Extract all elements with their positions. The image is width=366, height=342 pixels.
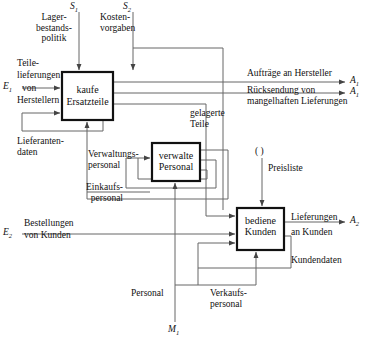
edge-verkaufspersonal-h — [198, 268, 256, 285]
terminal-s2-sub: 2 — [128, 6, 131, 13]
label-preisliste: Preisliste — [268, 163, 303, 174]
label-lieferungen-kunden: Lieferungen — [291, 212, 337, 223]
terminal-e1-sub: 1 — [9, 86, 12, 93]
terminal-m1-letter: M — [168, 324, 176, 334]
label-verwaltungspersonal: Verwaltungs- personal — [88, 149, 139, 170]
terminal-e1: E1 — [3, 81, 12, 95]
edge-s2-right-down — [133, 48, 223, 210]
box-label-bediene-line2: Kunden — [237, 226, 284, 237]
label-personal: Personal — [131, 288, 164, 299]
label-klammer: ( ) — [255, 146, 264, 157]
terminal-a2-sub: 2 — [356, 220, 359, 227]
label-bestellungen: Bestellungen — [24, 218, 74, 229]
terminal-e2-sub: 2 — [9, 232, 12, 239]
terminal-e2: E2 — [3, 227, 12, 241]
label-auftraege-an-hersteller: Aufträge an Hersteller — [247, 68, 332, 79]
terminal-m1-sub: 1 — [176, 329, 179, 336]
label-kundendaten: Kundendaten — [291, 255, 342, 266]
label-lagerbestandspolitik: Lager- bestands- politik — [28, 12, 80, 44]
label-ruecksendung-mangelhaft: Rücksendung von mangelhaften Lieferungen — [247, 85, 348, 106]
label-gelagerte-teile: gelagerte Teile — [190, 108, 225, 129]
label-herstellern: Herstellern — [17, 95, 59, 106]
terminal-a1b: A1 — [350, 86, 359, 100]
box-label-verwalte-line2: Personal — [152, 161, 200, 172]
terminal-s2: S2 — [123, 1, 131, 15]
terminal-s1-sub: 1 — [75, 6, 78, 13]
terminal-m1: M1 — [168, 324, 179, 338]
label-lieferungen: lieferungen — [17, 70, 60, 81]
label-teile: Teile- — [17, 58, 39, 69]
label-von: von — [22, 83, 36, 94]
terminal-s1: S1 — [70, 1, 78, 15]
terminal-a2: A2 — [350, 215, 359, 229]
terminal-a1b-sub: 1 — [356, 91, 359, 98]
label-verkaufspersonal: Verkaufs- personal — [210, 288, 247, 309]
label-an-kunden: an Kunden — [291, 227, 332, 238]
label-lieferantendaten: Lieferanten- daten — [17, 136, 64, 157]
label-von-kunden: von Kunden — [24, 230, 71, 241]
box-label-kaufe-line1: kaufe — [62, 84, 113, 95]
box-label-kaufe-line2: Ersatzteile — [62, 96, 113, 107]
label-einkaufspersonal: Einkaufs- personal — [55, 182, 123, 203]
diagram-canvas: kaufe Ersatzteile verwalte Personal bedi… — [0, 0, 366, 342]
box-label-bediene-line1: bediene — [237, 215, 284, 226]
box-label-verwalte-line1: verwalte — [152, 150, 200, 161]
